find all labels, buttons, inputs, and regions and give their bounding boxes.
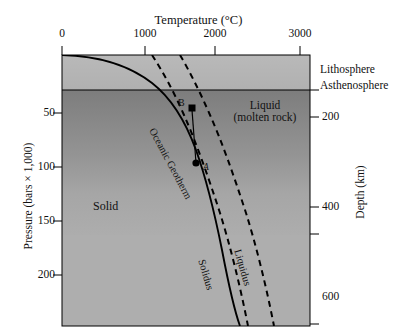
depth-axis-title: Depth (km): [354, 122, 366, 262]
y-tick-label-100: 100: [38, 161, 55, 173]
liquid-region-label-line2: (molten rock): [222, 112, 308, 124]
depth-axis-ticks: [310, 90, 319, 324]
x-tick-label-0: 0: [59, 28, 65, 40]
lithosphere-label: Lithosphere: [320, 64, 375, 76]
y-tick-label-150: 150: [38, 215, 55, 227]
x-tick-label-2000: 2000: [204, 28, 227, 40]
y-axis-title: Pressure (bars × 1,000): [22, 96, 34, 296]
x-tick-label-3000: 3000: [289, 28, 312, 40]
pressure-temperature-diagram: Temperature (°C) 0 1000 2000 3000 50 100…: [0, 0, 397, 336]
point-a-marker: [192, 159, 199, 166]
solid-region-label: Solid: [93, 200, 118, 212]
y-axis-ticks: [53, 113, 62, 275]
x-axis-title: Temperature (°C): [0, 14, 397, 27]
depth-tick-label-600: 600: [322, 291, 339, 303]
point-b-marker: [189, 105, 196, 112]
point-b-label: B: [178, 98, 185, 108]
x-axis-ticks: [62, 46, 300, 55]
plot-canvas: [0, 0, 397, 336]
point-a-label: A: [203, 163, 209, 173]
liquid-region-label-line1: Liquid: [222, 100, 308, 112]
y-tick-label-50: 50: [44, 107, 56, 119]
depth-tick-label-400: 400: [322, 201, 339, 213]
x-tick-label-1000: 1000: [134, 28, 157, 40]
asthenosphere-label: Asthenosphere: [320, 80, 388, 92]
liquid-region-label: Liquid (molten rock): [222, 100, 308, 123]
depth-tick-label-200: 200: [322, 111, 339, 123]
y-tick-label-200: 200: [38, 269, 55, 281]
